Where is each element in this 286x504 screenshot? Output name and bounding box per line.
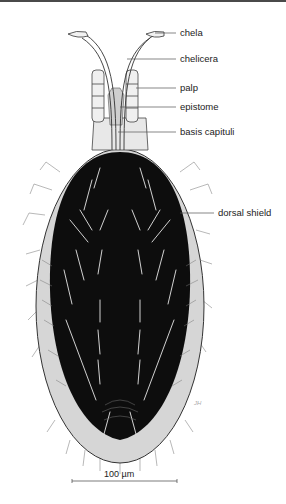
mite-illustration [0, 0, 286, 504]
label-basis-capituli: basis capituli [180, 127, 234, 137]
artist-signature: JH [194, 400, 201, 406]
chelae [68, 31, 164, 37]
scale-bar-label: 100 µm [104, 469, 134, 479]
label-epistome: epistome [180, 102, 219, 112]
scale-bar [72, 479, 177, 483]
label-dorsal-shield: dorsal shield [218, 208, 271, 218]
label-palp: palp [180, 83, 198, 93]
label-chelicera: chelicera [180, 54, 218, 64]
label-chela: chela [180, 28, 203, 38]
